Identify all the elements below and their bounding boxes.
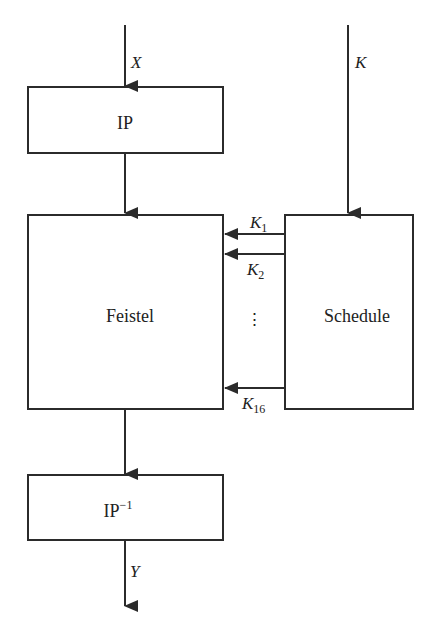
ip-inverse-block-label: IP−1 <box>104 498 133 521</box>
subkey-k2-label: K2 <box>246 260 264 282</box>
schedule-block-label: Schedule <box>324 306 390 326</box>
subkey-k1-label: K1 <box>249 213 267 235</box>
feistel-block-label: Feistel <box>106 306 154 326</box>
des-diagram: X K IP Feistel Schedule K1 K2 ⋮ K16 IP−1… <box>0 0 433 629</box>
input-x-label: X <box>130 53 142 72</box>
subkey-k16-label: K16 <box>241 394 265 416</box>
key-k-label: K <box>354 53 368 72</box>
subkey-ellipsis: ⋮ <box>246 310 263 329</box>
ip-block-label: IP <box>117 113 133 133</box>
output-y-label: Y <box>130 562 141 581</box>
